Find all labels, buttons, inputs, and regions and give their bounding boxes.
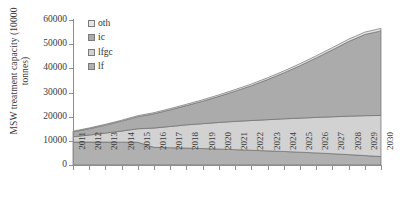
legend-swatch-lfgc [88, 49, 95, 56]
x-tick [365, 166, 366, 170]
x-tick [332, 166, 333, 170]
x-tick [219, 166, 220, 170]
x-tick-label: 2025 [304, 132, 314, 172]
x-tick-label: 2020 [223, 132, 233, 172]
x-tick [89, 166, 90, 170]
legend-label-ic: ic [98, 33, 105, 43]
y-tick-label: 40000 [43, 62, 67, 72]
y-tick [69, 93, 73, 94]
x-tick-label: 2012 [93, 132, 103, 172]
y-axis-line [73, 19, 74, 166]
x-tick-label: 2026 [320, 132, 330, 172]
chart-legend: oth ic lfgc lf [88, 16, 140, 74]
x-tick [138, 166, 139, 170]
x-tick [349, 166, 350, 170]
y-tick [69, 141, 73, 142]
x-tick [284, 166, 285, 170]
x-tick-label: 2021 [239, 132, 249, 172]
y-tick [69, 117, 73, 118]
x-tick [154, 166, 155, 170]
x-tick-label: 2024 [288, 132, 298, 172]
x-tick [186, 166, 187, 170]
x-tick-label: 2022 [255, 132, 265, 172]
x-tick [316, 166, 317, 170]
y-tick-label: 50000 [43, 38, 67, 48]
x-tick-label: 2030 [385, 132, 395, 172]
y-tick-label: 0 [62, 159, 67, 169]
y-tick [69, 68, 73, 69]
y-tick [69, 20, 73, 21]
x-tick [300, 166, 301, 170]
x-tick [203, 166, 204, 170]
x-tick [170, 166, 171, 170]
legend-swatch-lf [88, 63, 95, 70]
y-tick-label: 30000 [43, 87, 67, 97]
x-tick [235, 166, 236, 170]
legend-label-oth: oth [98, 19, 110, 29]
x-tick [105, 166, 106, 170]
x-tick-label: 2011 [77, 132, 87, 172]
x-tick [73, 166, 74, 170]
x-tick-label: 2027 [336, 132, 346, 172]
x-tick [268, 166, 269, 170]
x-tick-label: 2017 [174, 132, 184, 172]
y-tick-label: 20000 [43, 111, 67, 121]
x-tick [251, 166, 252, 170]
chart-container: MSW treatment capacity (10000 tonnes) 01… [0, 0, 412, 216]
legend-item-ic[interactable]: ic [88, 31, 140, 46]
x-tick-label: 2013 [109, 132, 119, 172]
x-tick-label: 2028 [353, 132, 363, 172]
stacked-area-plot [0, 0, 412, 216]
x-tick-label: 2023 [272, 132, 282, 172]
x-tick-label: 2029 [369, 132, 379, 172]
x-tick-label: 2016 [158, 132, 168, 172]
x-tick-label: 2015 [142, 132, 152, 172]
x-tick [381, 166, 382, 170]
legend-label-lfgc: lfgc [98, 48, 113, 58]
legend-item-oth[interactable]: oth [88, 16, 140, 31]
legend-label-lf: lf [98, 62, 104, 72]
x-tick-label: 2019 [207, 132, 217, 172]
legend-item-lfgc[interactable]: lfgc [88, 45, 140, 60]
x-tick-label: 2018 [190, 132, 200, 172]
x-tick [122, 166, 123, 170]
y-tick [69, 44, 73, 45]
y-tick-label: 10000 [43, 135, 67, 145]
y-tick-label: 60000 [43, 14, 67, 24]
x-tick-label: 2014 [126, 132, 136, 172]
legend-swatch-oth [88, 20, 95, 27]
legend-item-lf[interactable]: lf [88, 60, 140, 75]
legend-swatch-ic [88, 34, 95, 41]
